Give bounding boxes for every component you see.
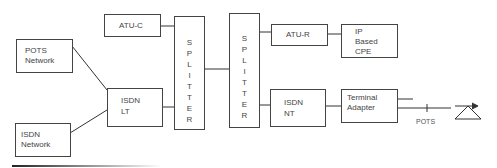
splitter-2-label: SPLITTER (242, 33, 248, 121)
pots-network-box: POTS Network (16, 39, 73, 73)
atu-c-box: ATU-C (104, 14, 161, 37)
atu-r-label: ATU-R (286, 30, 310, 40)
isdn-nt-label-line2: NT (284, 109, 295, 119)
isdn-lt-box: ISDN LT (107, 88, 163, 127)
isdn-lt-label-line1: ISDN (121, 96, 140, 106)
isdn-network-label-line1: ISDN (21, 130, 40, 140)
splitter-2-box: SPLITTER (229, 13, 260, 128)
pots-line-label: POTS (416, 118, 435, 125)
isdn-lt-label-line2: LT (121, 107, 130, 117)
terminal-adapter-label-line2: Adapter (347, 103, 375, 113)
pots-network-label-line2: Network (25, 56, 54, 66)
ip-cpe-label-line2: Based (355, 37, 378, 47)
isdn-nt-box: ISDN NT (270, 89, 326, 127)
terminal-adapter-label-line1: Terminal (347, 93, 377, 103)
splitter-1-box: SPLITTER (174, 16, 205, 130)
atu-r-box: ATU-R (271, 24, 328, 46)
splitter-1-label: SPLITTER (187, 37, 193, 125)
ip-based-cpe-box: IP Based CPE (341, 24, 398, 58)
telephone-icon (453, 102, 483, 120)
ip-cpe-label-line1: IP (355, 27, 363, 37)
ip-cpe-label-line3: CPE (355, 47, 371, 57)
atu-c-label: ATU-C (119, 21, 143, 31)
isdn-network-label-line2: Network (21, 140, 50, 150)
isdn-nt-label-line1: ISDN (284, 98, 303, 108)
pots-network-label-line1: POTS (25, 46, 47, 56)
bottom-divider (12, 165, 162, 167)
terminal-adapter-box: Terminal Adapter (341, 89, 398, 123)
isdn-network-box: ISDN Network (15, 123, 71, 157)
